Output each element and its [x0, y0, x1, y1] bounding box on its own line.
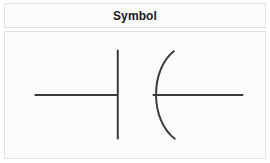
symbol-card: Symbol [4, 3, 266, 159]
symbol-card-header: Symbol [4, 3, 266, 28]
symbol-card-header-title: Symbol [113, 10, 157, 22]
polarized-capacitor-symbol-icon [5, 32, 265, 158]
symbol-card-body [4, 31, 266, 159]
